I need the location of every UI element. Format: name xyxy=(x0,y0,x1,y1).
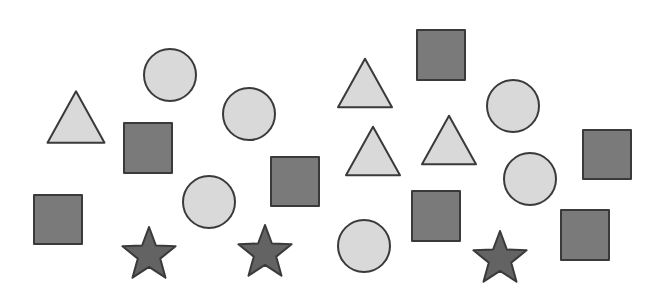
star-shape-1 xyxy=(122,227,175,278)
star-shape-3 xyxy=(473,231,526,282)
triangle-shape-4 xyxy=(422,116,476,165)
star-shape-2 xyxy=(238,225,291,276)
circle-shape-5 xyxy=(183,176,235,228)
square-shape-3 xyxy=(583,130,631,179)
square-shape-4 xyxy=(34,195,82,244)
circle-shape-4 xyxy=(504,153,556,205)
triangle-shape-2 xyxy=(338,59,392,108)
circle-shape-6 xyxy=(338,220,390,272)
square-shape-7 xyxy=(561,210,609,260)
circle-shape-3 xyxy=(487,80,539,132)
square-shape-5 xyxy=(271,157,319,206)
circle-shape-1 xyxy=(144,49,196,101)
triangle-shape-3 xyxy=(346,127,400,176)
shape-layer xyxy=(34,30,631,282)
circle-shape-2 xyxy=(223,88,275,140)
triangle-shape-1 xyxy=(48,91,105,142)
square-shape-1 xyxy=(124,123,172,173)
shapes-canvas xyxy=(0,0,656,303)
square-shape-6 xyxy=(412,191,460,241)
square-shape-2 xyxy=(417,30,465,80)
